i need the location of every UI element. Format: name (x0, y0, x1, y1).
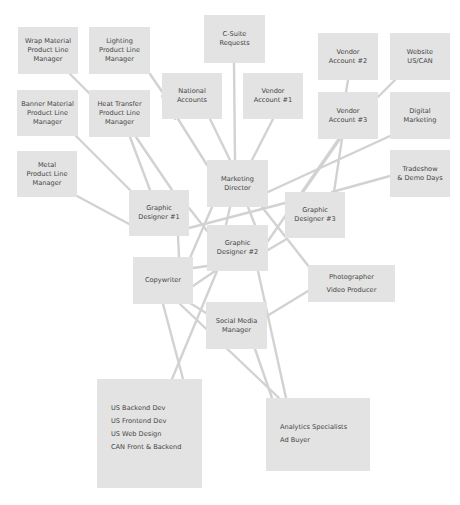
node-graphic-designer-3: Graphic Designer #3 (285, 192, 345, 238)
node-label: National (178, 87, 205, 96)
node-label: Website (407, 48, 433, 57)
node-label: US Web Design (111, 428, 161, 441)
node-marketing-director: Marketing Director (207, 160, 268, 207)
node-label: Requests (219, 39, 249, 48)
node-label: Vendor (261, 87, 284, 96)
node-label: Manager (222, 326, 251, 335)
node-label: US Backend Dev (111, 402, 165, 415)
node-label: Metal (38, 161, 56, 170)
node-label: Product Line (99, 46, 140, 55)
node-label: Tradeshow (402, 165, 437, 174)
node-website-us-can: Website US/CAN (390, 33, 450, 80)
edge (255, 349, 272, 398)
node-copywriter: Copywriter (133, 257, 193, 304)
node-analytics-ad-buyer: Analytics Specialists Ad Buyer (266, 398, 370, 471)
node-label: Vendor (336, 48, 359, 57)
edge (346, 80, 348, 92)
node-label: Social Media (216, 317, 257, 326)
node-vendor-account-3: Vendor Account #3 (318, 92, 378, 139)
node-social-media-manager: Social Media Manager (206, 302, 267, 349)
node-digital-marketing: Digital Marketing (390, 92, 450, 139)
node-label: Digital (409, 107, 430, 116)
node-label: Banner Material (21, 100, 74, 109)
edge (178, 236, 179, 257)
node-national-accounts: National Accounts (162, 73, 222, 119)
node-label: Vendor (336, 107, 359, 116)
node-label: Copywriter (145, 276, 181, 285)
node-vendor-account-1: Vendor Account #1 (243, 73, 303, 119)
node-label: Account #1 (254, 96, 292, 105)
edge (210, 119, 230, 160)
node-label: Heat Transfer (97, 100, 141, 109)
node-label: Product Line (27, 109, 68, 118)
node-label: Ad Buyer (280, 434, 310, 447)
node-label: Lighting (106, 37, 133, 46)
node-label: Product Line (28, 46, 69, 55)
node-label: Manager (105, 55, 134, 64)
node-label: C-Suite (223, 30, 247, 39)
node-label: Wrap Material (25, 37, 71, 46)
node-label: Marketing (221, 175, 254, 184)
node-web-development-team: US Backend Dev US Frontend Dev US Web De… (97, 379, 202, 488)
edge (136, 137, 172, 190)
node-label: Graphic (225, 239, 251, 248)
node-wrap-material-manager: Wrap Material Product Line Manager (18, 27, 78, 74)
node-label: Manager (34, 55, 63, 64)
node-graphic-designer-2: Graphic Designer #2 (207, 225, 268, 271)
edge (163, 304, 183, 379)
node-label: Account #2 (329, 57, 367, 66)
edge (268, 136, 390, 192)
node-label: Video Producer (327, 284, 377, 297)
node-label: Manager (33, 118, 62, 127)
node-label: Manager (105, 118, 134, 127)
edge (178, 119, 207, 165)
node-label: Account #3 (329, 116, 367, 125)
node-label: Product Line (27, 170, 68, 179)
node-label: US/CAN (407, 57, 432, 66)
node-label: & Demo Days (397, 174, 442, 183)
edge (252, 119, 273, 160)
edge (193, 266, 207, 268)
node-lighting-manager: Lighting Product Line Manager (89, 27, 150, 74)
node-label: Designer #1 (138, 213, 179, 222)
node-label: Manager (33, 179, 62, 188)
edge (234, 63, 235, 160)
edge (267, 291, 308, 316)
node-label: US Frontend Dev (111, 415, 166, 428)
edge (77, 196, 129, 224)
edge (268, 240, 285, 250)
node-tradeshow-demo-days: Tradeshow & Demo Days (390, 150, 450, 197)
edge (332, 176, 390, 192)
node-label: Director (224, 184, 251, 193)
edge (248, 207, 255, 225)
node-heat-transfer-manager: Heat Transfer Product Line Manager (89, 90, 150, 137)
node-c-suite-requests: C-Suite Requests (204, 15, 265, 63)
node-label: Marketing (404, 116, 437, 125)
edge (226, 207, 230, 225)
node-label: Accounts (177, 96, 207, 105)
node-label: Designer #2 (217, 248, 258, 257)
node-label: CAN Front & Backend (111, 441, 181, 454)
edge (76, 136, 130, 190)
node-label: Product Line (99, 109, 140, 118)
node-label: Graphic (302, 206, 328, 215)
node-metal-manager: Metal Product Line Manager (17, 151, 77, 197)
node-photographer-video-producer: Photographer Video Producer (308, 265, 395, 302)
node-label: Graphic (146, 204, 172, 213)
node-vendor-account-2: Vendor Account #2 (318, 33, 378, 80)
node-graphic-designer-1: Graphic Designer #1 (129, 190, 189, 236)
node-label: Photographer (329, 271, 374, 284)
node-banner-material-manager: Banner Material Product Line Manager (17, 90, 78, 136)
node-label: Designer #3 (294, 215, 335, 224)
node-label: Analytics Specialists (280, 421, 347, 434)
org-diagram: Wrap Material Product Line Manager Light… (0, 0, 460, 505)
